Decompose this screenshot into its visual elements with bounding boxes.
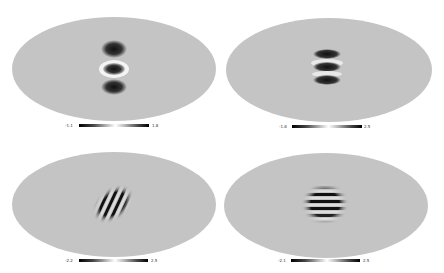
colorbar-max-label: 2.5 bbox=[363, 258, 369, 263]
colorbar bbox=[292, 125, 362, 128]
lobe-pattern bbox=[12, 17, 216, 121]
stripe-pattern bbox=[226, 18, 432, 122]
mollweide-map bbox=[12, 17, 216, 121]
colorbar-max-label: 2.5 bbox=[364, 124, 370, 129]
tilted-stripe-pattern bbox=[12, 152, 216, 257]
mollweide-map bbox=[224, 153, 428, 258]
colorbar-max-label: 1.8 bbox=[152, 123, 158, 128]
colorbar bbox=[291, 259, 360, 262]
colorbar-min-label: -2.1 bbox=[278, 258, 286, 263]
colorbar-min-label: -1.8 bbox=[279, 124, 287, 129]
colorbar bbox=[79, 259, 148, 262]
colorbar-min-label: -1.1 bbox=[65, 123, 73, 128]
mollweide-map bbox=[226, 18, 432, 122]
colorbar bbox=[79, 124, 149, 127]
colorbar-max-label: 2.5 bbox=[151, 258, 157, 263]
horizontal-stripe-pattern bbox=[224, 153, 428, 258]
colorbar-min-label: -2.2 bbox=[65, 258, 73, 263]
mollweide-map bbox=[12, 152, 216, 257]
